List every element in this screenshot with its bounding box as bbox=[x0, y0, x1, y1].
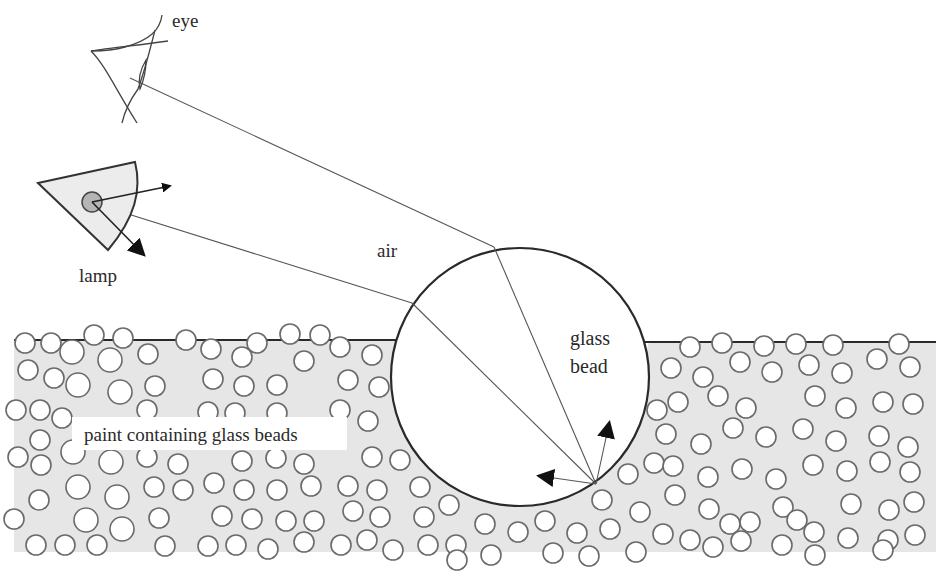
glass-bead-label-line1: glass bbox=[570, 327, 610, 350]
eye-label: eye bbox=[172, 10, 198, 31]
diagram-canvas: eye lamp air glass bead paint containing… bbox=[0, 0, 946, 576]
glass-bead-label-line2: bead bbox=[570, 355, 608, 377]
lamp-label: lamp bbox=[79, 265, 117, 286]
lamp-icon bbox=[38, 162, 170, 254]
big-glass-bead bbox=[391, 248, 649, 506]
retroreflection-diagram: eye lamp air glass bead paint containing… bbox=[0, 0, 946, 576]
paint-label: paint containing glass beads bbox=[84, 424, 298, 445]
air-label: air bbox=[377, 240, 398, 261]
eye-icon bbox=[91, 15, 168, 123]
